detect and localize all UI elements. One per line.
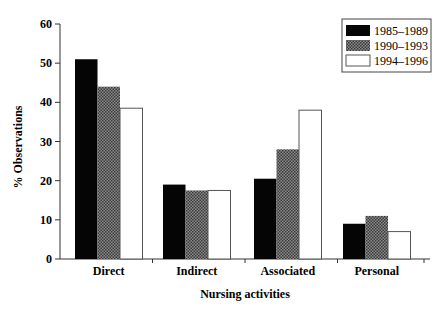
legend: 1985–19891990–19931994–1996	[342, 19, 431, 72]
y-tick-label: 10	[40, 213, 52, 227]
x-axis-title: Nursing activities	[200, 287, 290, 301]
x-axis	[60, 259, 430, 263]
legend-swatch	[346, 25, 370, 36]
bar-associated-3	[299, 110, 322, 259]
category-label: Direct	[93, 264, 125, 278]
bars	[75, 59, 411, 259]
bar-personal-1	[343, 224, 366, 259]
y-tick-label: 50	[40, 56, 52, 70]
y-axis-title: % Observations	[11, 105, 25, 188]
y-tick-label: 30	[40, 135, 52, 149]
bar-direct-3	[120, 108, 143, 259]
bar-associated-2	[277, 149, 300, 259]
bar-indirect-1	[163, 185, 186, 259]
bar-direct-2	[98, 87, 121, 259]
bar-direct-1	[75, 59, 98, 259]
bar-indirect-2	[186, 190, 209, 259]
legend-swatch	[346, 40, 370, 51]
category-label: Personal	[354, 264, 399, 278]
bar-associated-1	[254, 179, 277, 259]
y-tick-label: 20	[40, 174, 52, 188]
category-label: Associated	[260, 264, 315, 278]
legend-swatch	[346, 55, 370, 66]
bar-indirect-3	[208, 190, 231, 259]
y-tick-label: 40	[40, 95, 52, 109]
bar-personal-2	[366, 216, 389, 259]
legend-label: 1990–1993	[374, 39, 428, 53]
category-labels: DirectIndirectAssociatedPersonal	[93, 264, 400, 278]
legend-label: 1994–1996	[374, 54, 428, 68]
category-label: Indirect	[176, 264, 217, 278]
bar-chart: 0102030405060 DirectIndirectAssociatedPe…	[0, 0, 447, 310]
bar-personal-3	[388, 232, 411, 259]
legend-label: 1985–1989	[374, 24, 428, 38]
y-tick-label: 0	[46, 252, 52, 266]
y-axis: 0102030405060	[40, 17, 60, 266]
y-tick-label: 60	[40, 17, 52, 31]
